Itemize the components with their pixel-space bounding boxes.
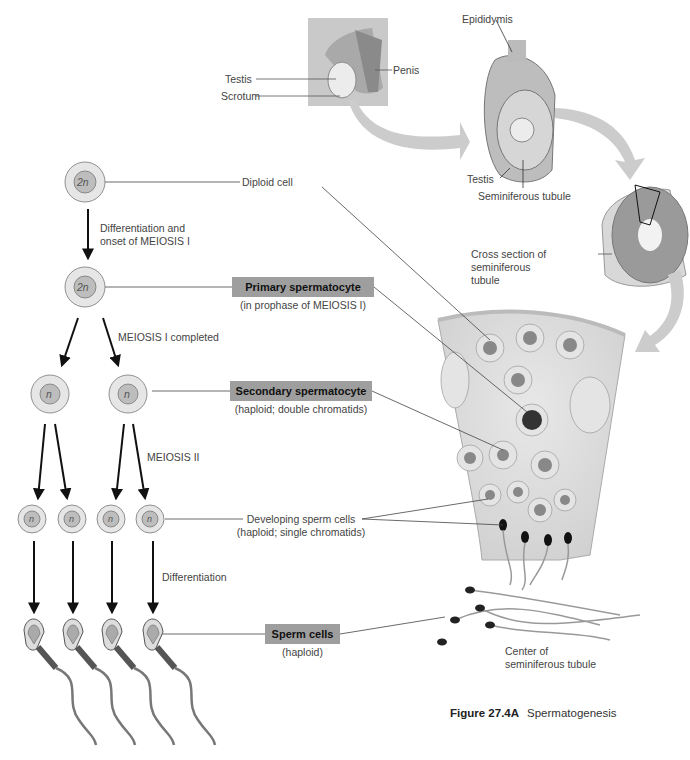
figure-number: Figure 27.4A [450, 707, 519, 719]
label-scrotum: Scrotum [221, 90, 260, 103]
ploidy-label: n [124, 388, 130, 401]
label-epididymis: Epididymis [462, 13, 513, 26]
step-differentiation: Differentiation [162, 571, 227, 584]
label-penis: Penis [393, 64, 419, 77]
step-meiosis2: MEIOSIS II [147, 451, 200, 464]
ploidy-label: n [46, 388, 52, 401]
figure-title: Spermatogenesis [527, 707, 617, 719]
label-cross-section: Cross section of seminiferous tubule [471, 248, 546, 287]
stage-secondary-detail: (haploid; double chromatids) [230, 403, 372, 415]
anatomy-inset-image [308, 18, 388, 106]
ploidy-label: n [147, 513, 152, 526]
step-meiosis1-completed: MEIOSIS I completed [118, 331, 219, 344]
label-testis: Testis [467, 173, 494, 186]
stage-sperm-detail: (haploid) [265, 646, 340, 658]
label-testis-inset: Testis [225, 73, 252, 86]
stage-primary-spermatocyte: Primary spermatocyte [232, 277, 374, 297]
stage-secondary-spermatocyte: Secondary spermatocyte [230, 381, 372, 401]
stage-sperm-cells: Sperm cells [265, 624, 340, 644]
ploidy-label: n [108, 513, 113, 526]
ploidy-label: n [69, 513, 74, 526]
step-differentiation-meiosis1: Differentiation and onset of MEIOSIS I [100, 222, 190, 248]
stage-developing-sperm: Developing sperm cells [230, 513, 372, 525]
ploidy-label: n [29, 513, 34, 526]
label-seminiferous-tubule: Seminiferous tubule [478, 190, 571, 203]
stage-primary-detail: (in prophase of MEIOSIS I) [232, 299, 374, 311]
ploidy-label: 2n [77, 281, 89, 294]
ploidy-label: 2n [77, 176, 89, 189]
testis-image [484, 40, 555, 182]
cross-section-image [602, 185, 688, 286]
figure-caption: Figure 27.4ASpermatogenesis [450, 703, 617, 721]
stage-developing-detail: (haploid; single chromatids) [230, 526, 372, 538]
tissue-wedge-image [437, 312, 640, 646]
sperm-cells-drawing [24, 619, 215, 745]
label-center-of-tubule: Center of seminiferous tubule [505, 645, 596, 671]
stage-diploid-cell: Diploid cell [242, 176, 293, 189]
